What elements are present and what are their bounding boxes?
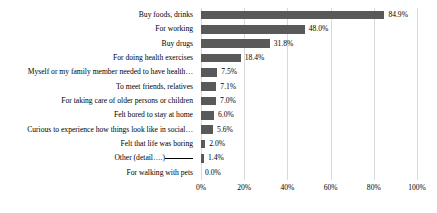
x-axis-tick-row: 0%20%40%60%80%100% [201, 181, 417, 195]
category-label: For working [0, 22, 197, 36]
bar-row: Other (detail….)1.4% [201, 151, 417, 165]
bar-value-label: 7.1% [220, 80, 236, 94]
plot-area: Buy foods, drinks84.9%For working48.0%Bu… [201, 8, 417, 180]
x-axis-tick-label: 0% [196, 181, 206, 195]
bar [201, 11, 384, 20]
bar-value-label: 0.0% [205, 166, 221, 180]
bar-value-label: 84.9% [388, 8, 408, 22]
category-label: For walking with pets [0, 166, 197, 180]
category-label: To meet friends, relatives [0, 80, 197, 94]
bar [201, 68, 217, 77]
bar-row: Felt that life was boring2.0% [201, 137, 417, 151]
x-axis-tick-label: 20% [237, 181, 251, 195]
bar-row: To meet friends, relatives7.1% [201, 80, 417, 94]
bar-row: Myself or my family member needed to hav… [201, 65, 417, 79]
x-axis-tick-label: 80% [367, 181, 381, 195]
bar [201, 82, 216, 91]
bar [201, 154, 204, 163]
bar-value-label: 2.0% [209, 137, 225, 151]
bar-row: Buy drugs31.8% [201, 37, 417, 51]
category-label: Other (detail….) [0, 151, 197, 165]
bar [201, 140, 205, 149]
category-label: For taking care of older persons or chil… [0, 94, 197, 108]
bar-row: For walking with pets0.0% [201, 166, 417, 180]
fill-in-blank-line [165, 158, 193, 159]
bar [201, 125, 213, 134]
category-label: Buy drugs [0, 37, 197, 51]
bar-value-label: 1.4% [208, 151, 224, 165]
bar-row: For taking care of older persons or chil… [201, 94, 417, 108]
bar-value-label: 7.5% [221, 65, 237, 79]
bar [201, 111, 214, 120]
horizontal-bar-chart: Buy foods, drinks84.9%For working48.0%Bu… [0, 0, 437, 213]
bar-row: For working48.0% [201, 22, 417, 36]
bar-value-label: 7.0% [220, 94, 236, 108]
category-label: Myself or my family member needed to hav… [0, 65, 197, 79]
x-axis-tick-label: 100% [408, 181, 426, 195]
category-label: Felt bored to stay at home [0, 108, 197, 122]
bar-row: Buy foods, drinks84.9% [201, 8, 417, 22]
bar [201, 54, 241, 63]
bar-row: Curious to experience how things look li… [201, 123, 417, 137]
bar-value-label: 6.0% [218, 108, 234, 122]
category-label: Buy foods, drinks [0, 8, 197, 22]
bar-value-label: 5.6% [217, 123, 233, 137]
bar-row: For doing health exercises18.4% [201, 51, 417, 65]
x-axis-tick-label: 60% [324, 181, 338, 195]
category-label: Curious to experience how things look li… [0, 123, 197, 137]
category-label: For doing health exercises [0, 51, 197, 65]
bar [201, 97, 216, 106]
bar-row: Felt bored to stay at home6.0% [201, 108, 417, 122]
bar [201, 25, 305, 34]
bar-value-label: 18.4% [245, 51, 265, 65]
bar-value-label: 48.0% [309, 22, 329, 36]
bar-value-label: 31.8% [274, 37, 294, 51]
bar [201, 39, 270, 48]
gridline-100 [417, 8, 418, 180]
category-label: Felt that life was boring [0, 137, 197, 151]
x-axis-tick-label: 40% [280, 181, 294, 195]
